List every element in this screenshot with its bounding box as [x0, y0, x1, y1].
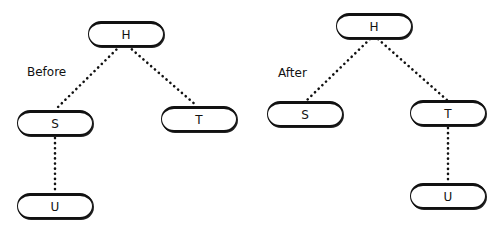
- after-node-h: H: [336, 13, 412, 39]
- after-label: After: [278, 66, 307, 80]
- before-node-t: T: [161, 106, 237, 132]
- after-node-u: U: [410, 183, 486, 209]
- edge-after-h-t: [378, 39, 447, 100]
- after-node-t: T: [410, 100, 486, 126]
- before-node-u: U: [17, 193, 93, 219]
- before-node-h: H: [88, 21, 164, 47]
- before-label: Before: [27, 65, 66, 79]
- before-node-s: S: [17, 110, 93, 136]
- edge-after-h-s: [306, 39, 370, 101]
- edge-before-h-t: [128, 46, 197, 106]
- after-node-s: S: [267, 101, 343, 127]
